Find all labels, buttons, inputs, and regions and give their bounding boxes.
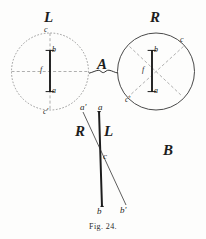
figure-container: L R A c b f a c' c b f a c' a' a R L c b… bbox=[0, 0, 206, 239]
left-circle-group bbox=[12, 33, 89, 110]
left-circle-axis-bottom-label: c' bbox=[43, 108, 48, 116]
left-circle-axis-top-label: c bbox=[44, 26, 48, 34]
right-needle-top-label: b bbox=[154, 46, 158, 54]
figure-drawing bbox=[0, 0, 206, 239]
panel-b-bottom-left-label: b bbox=[97, 207, 102, 216]
left-needle-top-label: b bbox=[52, 46, 56, 54]
left-pivot-label: f bbox=[40, 66, 42, 74]
left-circle-title: L bbox=[44, 10, 53, 25]
panel-b-vertical-needle bbox=[99, 111, 102, 207]
panel-b-top-left-label: a' bbox=[80, 103, 86, 112]
right-circle-axis-bottom-label: c' bbox=[125, 96, 130, 104]
panel-b-crossing-label: c bbox=[103, 152, 107, 161]
left-needle-bottom-label: a bbox=[52, 87, 56, 95]
panel-b-bottom-right-label: b' bbox=[120, 206, 126, 215]
panel-b-top-right-label: a bbox=[98, 103, 103, 112]
figure-caption: Fig. 24. bbox=[0, 222, 206, 231]
right-circle-axis-top-label: c bbox=[180, 36, 184, 44]
panel-a-label: A bbox=[97, 57, 107, 72]
panel-b-label: B bbox=[163, 143, 173, 158]
right-circle-title: R bbox=[150, 10, 160, 25]
right-pivot-label: f bbox=[142, 66, 144, 74]
right-needle-bottom-label: a bbox=[154, 87, 158, 95]
panel-b-line-right-label: L bbox=[104, 124, 113, 139]
panel-b-line-left-label: R bbox=[75, 124, 85, 139]
